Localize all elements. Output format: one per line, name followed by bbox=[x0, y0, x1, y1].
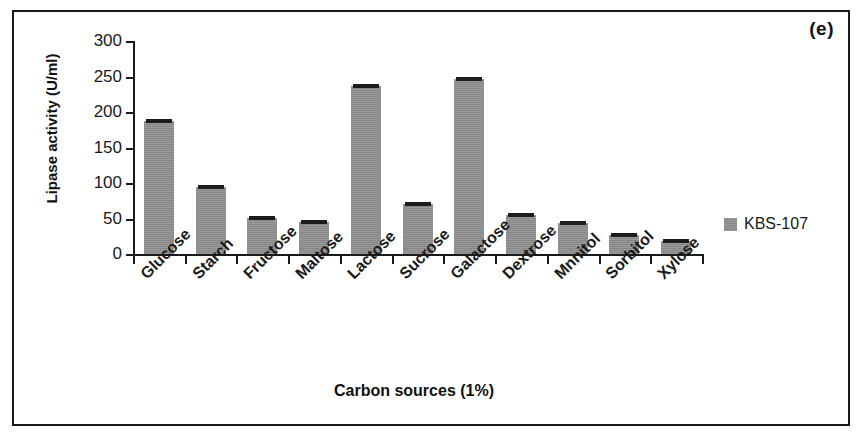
x-tick-mark bbox=[236, 256, 238, 264]
error-bar-cap bbox=[663, 239, 689, 243]
bar-sorbitol[interactable] bbox=[609, 235, 639, 254]
bar-fill bbox=[609, 235, 639, 254]
x-tick-mark bbox=[702, 256, 704, 264]
chart-legend: KBS-107 bbox=[724, 215, 808, 233]
error-bar-cap bbox=[456, 77, 482, 81]
panel-label: (e) bbox=[809, 18, 834, 40]
x-tick-mark bbox=[340, 256, 342, 264]
bar-fill bbox=[558, 223, 588, 254]
x-tick-mark bbox=[185, 256, 187, 264]
x-axis-line bbox=[133, 254, 704, 256]
x-tick-mark bbox=[650, 256, 652, 264]
legend-swatch-kbs-107 bbox=[724, 218, 737, 231]
bar-fill bbox=[247, 218, 277, 254]
x-tick-mark bbox=[288, 256, 290, 264]
x-tick-mark bbox=[443, 256, 445, 264]
error-bar-cap bbox=[301, 220, 327, 224]
bar-mnnitol[interactable] bbox=[558, 223, 588, 254]
bar-lactose[interactable] bbox=[351, 86, 381, 254]
error-bar-cap bbox=[353, 84, 379, 88]
bar-dextrose[interactable] bbox=[506, 215, 536, 254]
x-tick-mark bbox=[495, 256, 497, 264]
bar-fill bbox=[403, 204, 433, 254]
y-tick-label: 150 bbox=[94, 138, 122, 158]
y-tick-label: 0 bbox=[113, 244, 122, 264]
error-bar-cap bbox=[198, 185, 224, 189]
bar-fill bbox=[351, 86, 381, 254]
bar-sucrose[interactable] bbox=[403, 204, 433, 254]
bar-xylose[interactable] bbox=[661, 241, 691, 254]
y-tick-label: 100 bbox=[94, 173, 122, 193]
bar-fructose[interactable] bbox=[247, 218, 277, 254]
error-bar-cap bbox=[560, 221, 586, 225]
bar-galactose[interactable] bbox=[454, 79, 484, 254]
y-tick-label: 250 bbox=[94, 67, 122, 87]
error-bar-cap bbox=[146, 119, 172, 123]
plot-area bbox=[133, 41, 702, 254]
error-bar-cap bbox=[611, 233, 637, 237]
x-axis-title: Carbon sources (1%) bbox=[104, 382, 724, 400]
bar-fill bbox=[454, 79, 484, 254]
legend-label-kbs-107: KBS-107 bbox=[744, 215, 808, 233]
bar-maltose[interactable] bbox=[299, 222, 329, 254]
x-tick-mark bbox=[133, 256, 135, 264]
y-axis-tick-labels: 050100150200250300 bbox=[44, 41, 122, 254]
bar-starch[interactable] bbox=[196, 187, 226, 254]
y-tick-label: 200 bbox=[94, 102, 122, 122]
error-bar-cap bbox=[405, 202, 431, 206]
error-bar-cap bbox=[249, 216, 275, 220]
error-bar-cap bbox=[508, 213, 534, 217]
x-tick-mark bbox=[547, 256, 549, 264]
x-tick-mark bbox=[599, 256, 601, 264]
bar-fill bbox=[299, 222, 329, 254]
y-tick-label: 50 bbox=[103, 209, 122, 229]
y-tick-label: 300 bbox=[94, 31, 122, 51]
bar-fill bbox=[661, 241, 691, 254]
x-tick-mark bbox=[392, 256, 394, 264]
bar-fill bbox=[196, 187, 226, 254]
bar-fill bbox=[506, 215, 536, 254]
bar-glucose[interactable] bbox=[144, 121, 174, 254]
bar-fill bbox=[144, 121, 174, 254]
figure-frame: (e) Lipase activity (U/ml) 0501001502002… bbox=[12, 10, 850, 426]
